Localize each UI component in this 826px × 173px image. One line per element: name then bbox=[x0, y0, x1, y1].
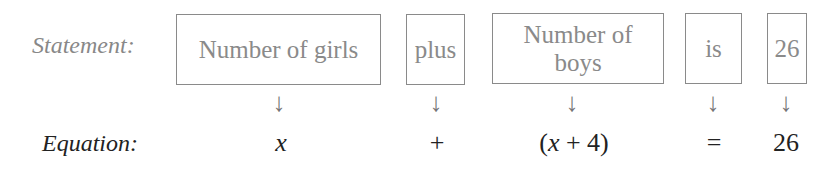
term-x: x bbox=[275, 128, 287, 158]
statement-label: Statement: bbox=[32, 32, 135, 59]
phrase-box-is: is bbox=[685, 13, 742, 84]
term-x-plus-4: (x + 4) bbox=[539, 128, 609, 158]
variable-x: x bbox=[548, 128, 560, 157]
down-arrow-icon: ↓ bbox=[780, 88, 793, 118]
phrase-box-26: 26 bbox=[767, 13, 807, 84]
down-arrow-icon: ↓ bbox=[430, 88, 443, 118]
open-paren: ( bbox=[539, 128, 548, 157]
phrase-box-plus: plus bbox=[406, 14, 465, 85]
term-plus: + bbox=[430, 128, 445, 158]
term-rest: + 4) bbox=[559, 128, 608, 157]
equation-label: Equation: bbox=[42, 130, 138, 157]
phrase-box-girls: Number of girls bbox=[176, 14, 381, 85]
phrase-box-boys: Number of boys bbox=[492, 13, 664, 84]
down-arrow-icon: ↓ bbox=[707, 88, 720, 118]
down-arrow-icon: ↓ bbox=[566, 88, 579, 118]
term-equals: = bbox=[707, 128, 722, 158]
term-26: 26 bbox=[773, 128, 799, 158]
down-arrow-icon: ↓ bbox=[273, 88, 286, 118]
